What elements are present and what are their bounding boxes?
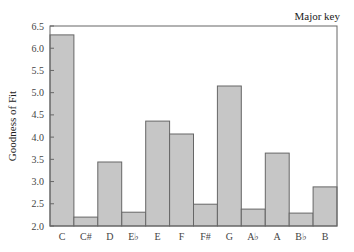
bar-1 [74, 217, 98, 226]
bars [50, 35, 337, 226]
x-tick-label: A [274, 231, 282, 242]
x-tick-label: B [322, 231, 329, 242]
x-tick-label: G [226, 231, 233, 242]
y-tick-label: 3.5 [32, 154, 45, 165]
y-tick-label: 6.5 [32, 21, 45, 32]
bar-3 [122, 212, 146, 226]
y-tick-label: 6.0 [32, 43, 45, 54]
y-tick-label: 5.5 [32, 65, 45, 76]
chart-title: Major key [294, 10, 340, 22]
y-tick-label: 2.0 [32, 221, 45, 232]
x-tick-label: B♭ [295, 231, 307, 242]
bar-chart: Major key Goodness of Fit 2.02.53.03.54.… [0, 0, 354, 252]
y-tick-label: 3.0 [32, 176, 45, 187]
y-tick-label: 5.0 [32, 87, 45, 98]
x-tick-label: D [106, 231, 113, 242]
y-tick-label: 4.5 [32, 109, 45, 120]
y-tick-label: 4.0 [32, 132, 45, 143]
x-tick-label: C [59, 231, 66, 242]
bar-5 [170, 134, 194, 226]
x-tick-label: F# [200, 231, 211, 242]
x-axis-ticks: CC#DE♭EFF#GA♭AB♭B [59, 231, 329, 242]
bar-7 [217, 86, 241, 226]
x-tick-label: E♭ [128, 231, 139, 242]
y-tick-label: 2.5 [32, 198, 45, 209]
bar-11 [313, 187, 337, 226]
x-tick-label: A♭ [247, 231, 259, 242]
bar-2 [98, 162, 122, 226]
y-axis-label: Goodness of Fit [6, 91, 18, 161]
bar-6 [194, 204, 218, 226]
x-tick-label: F [179, 231, 185, 242]
bar-9 [265, 153, 289, 226]
bar-4 [146, 121, 170, 226]
bar-10 [289, 213, 313, 226]
x-tick-label: C# [80, 231, 92, 242]
bar-8 [241, 209, 265, 226]
bar-0 [50, 35, 74, 226]
x-tick-label: E [155, 231, 161, 242]
